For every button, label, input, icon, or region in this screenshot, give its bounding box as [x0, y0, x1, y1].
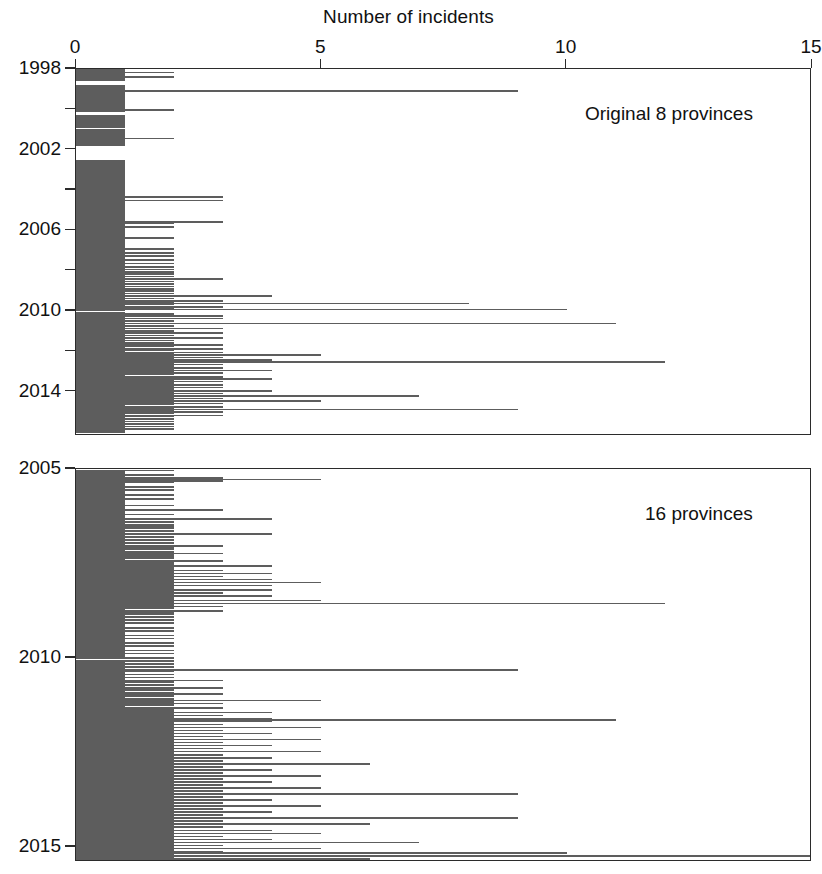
- incident-bar: [76, 432, 125, 434]
- y-tick-mark: [65, 390, 75, 392]
- incident-bar: [76, 79, 125, 81]
- panel-16-provinces: [75, 468, 811, 861]
- y-tick-label-2010: 2010: [19, 299, 61, 321]
- x-tick-label-5: 5: [315, 36, 326, 58]
- y-tick-mark: [65, 67, 75, 69]
- incident-bar: [76, 127, 125, 129]
- y-tick-mark: [65, 350, 75, 352]
- x-tick-mark: [811, 59, 812, 68]
- incident-bar: [76, 309, 567, 311]
- y-tick-mark: [65, 148, 75, 150]
- incident-bar: [76, 90, 518, 92]
- x-axis: 051015: [0, 36, 817, 64]
- x-tick-label-15: 15: [800, 36, 821, 58]
- y-axis-top-panel: 19982002200620102014: [0, 68, 75, 435]
- y-tick-label-2005: 2005: [19, 457, 61, 479]
- y-tick-mark: [65, 309, 75, 311]
- x-tick-mark: [565, 59, 566, 68]
- y-tick-mark: [65, 188, 75, 190]
- incident-bar: [76, 144, 125, 146]
- y-tick-mark: [65, 269, 75, 271]
- x-tick-mark: [320, 59, 321, 68]
- incident-bar: [76, 855, 811, 857]
- x-axis-title: Number of incidents: [0, 6, 817, 28]
- x-tick-label-0: 0: [70, 36, 81, 58]
- y-tick-label-2010: 2010: [19, 646, 61, 668]
- incident-bar: [76, 111, 125, 113]
- y-tick-label-2015: 2015: [19, 835, 61, 857]
- y-tick-label-2002: 2002: [19, 138, 61, 160]
- y-tick-mark: [65, 108, 75, 110]
- y-tick-label-2006: 2006: [19, 218, 61, 240]
- y-tick-mark: [65, 467, 75, 469]
- incident-bar: [76, 860, 174, 861]
- y-tick-mark: [65, 656, 75, 658]
- panel-annotation-bottom: 16 provinces: [645, 503, 753, 525]
- y-tick-mark: [65, 845, 75, 847]
- y-tick-label-1998: 1998: [19, 57, 61, 79]
- incident-bar: [76, 323, 616, 325]
- panel-annotation-top: Original 8 provinces: [585, 103, 753, 125]
- y-tick-mark: [65, 229, 75, 231]
- plot-area-bottom: [76, 469, 810, 860]
- y-tick-label-2014: 2014: [19, 380, 61, 402]
- y-axis-bottom-panel: 200520102015: [0, 468, 75, 861]
- x-tick-label-10: 10: [555, 36, 576, 58]
- incident-bar: [76, 657, 174, 659]
